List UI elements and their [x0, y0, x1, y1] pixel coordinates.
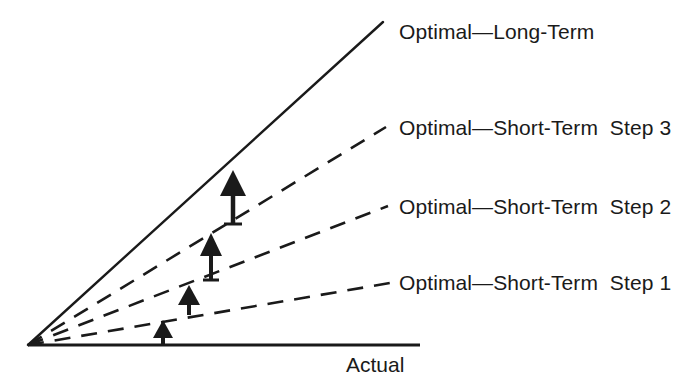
gap-arrow-step-1-to-step-2 [178, 285, 200, 315]
label-optimal-short-term-step-2: Optimal—Short-Term Step 2 [399, 196, 671, 217]
gap-arrow-step-2-to-step-3 [200, 233, 222, 281]
label-optimal-short-term-step-3: Optimal—Short-Term Step 3 [399, 117, 671, 138]
diagram-canvas: Optimal—Long-Term Optimal—Short-Term Ste… [0, 0, 693, 392]
gap-arrow-actual-to-step-1 [153, 320, 173, 345]
line-optimal-short-term-step-1 [28, 283, 390, 345]
label-optimal-long-term: Optimal—Long-Term [399, 21, 594, 42]
gap-arrow-step-3-to-long-term [220, 170, 246, 225]
line-optimal-short-term-step-2 [28, 206, 388, 345]
line-optimal-long-term [28, 22, 383, 345]
label-optimal-short-term-step-1: Optimal—Short-Term Step 1 [399, 272, 671, 293]
line-optimal-short-term-step-3 [28, 127, 386, 345]
label-actual: Actual [346, 354, 404, 375]
